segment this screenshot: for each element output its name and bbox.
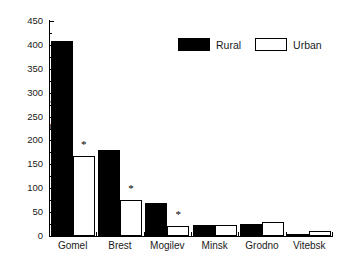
y-tick-label: 150 [27,158,43,169]
bar-rural-brest [98,150,120,236]
plot-area: 050100150200250300350400450 *** GomelBre… [49,20,333,237]
y-tick-label: 300 [27,87,43,98]
bar-group-minsk [193,20,237,236]
x-axis-line [49,236,333,237]
bar-rural-mogilev [145,203,167,236]
y-tick-label: 100 [27,182,43,193]
x-label-vitebsk: Vitebsk [286,240,333,251]
bar-group-brest: * [98,20,142,236]
y-tick-mark [50,236,54,237]
bar-urban-gomel [73,156,95,236]
bar-urban-grodno [262,222,284,236]
bar-group-gomel: * [51,20,95,236]
x-label-mogilev: Mogilev [144,240,191,251]
significance-asterisk-mogilev: * [167,209,189,220]
y-tick-label: 350 [27,63,43,74]
y-tick-label: 200 [27,134,43,145]
bar-chart-figure: Prevalence Rural Urban 05010015020025030… [0,0,344,272]
bar-group-grodno [240,20,284,236]
x-label-gomel: Gomel [49,240,96,251]
significance-asterisk-gomel: * [73,139,95,150]
bar-urban-mogilev [167,226,189,236]
y-tick-label: 0 [38,230,43,241]
significance-asterisk-brest: * [120,183,142,194]
bar-group-mogilev: * [145,20,189,236]
y-tick-0: 0 [49,236,54,237]
y-tick-label: 450 [27,15,43,26]
bar-rural-vitebsk [287,234,309,236]
y-tick-label: 400 [27,39,43,50]
x-tick-mark [332,232,333,236]
bar-urban-minsk [215,225,237,236]
x-label-brest: Brest [96,240,143,251]
y-tick-label: 50 [32,206,43,217]
bar-urban-brest [120,200,142,236]
bar-rural-gomel [51,41,73,236]
x-label-grodno: Grodno [238,240,285,251]
y-tick-label: 250 [27,111,43,122]
bar-urban-vitebsk [309,231,331,236]
x-label-minsk: Minsk [191,240,238,251]
bar-group-vitebsk [287,20,331,236]
bar-rural-minsk [193,225,215,236]
bar-rural-grodno [240,224,262,236]
